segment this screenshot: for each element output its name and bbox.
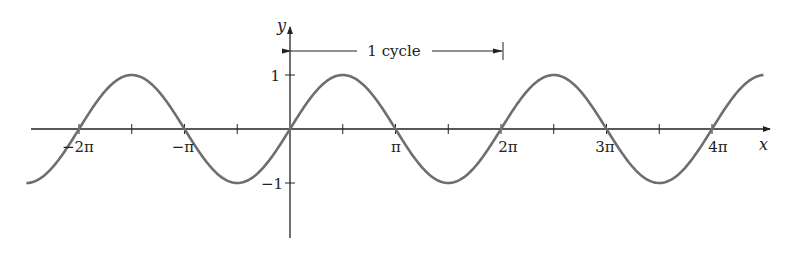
cycle-annotation: 1 cycle — [291, 42, 503, 60]
y-tick-label: 1 — [270, 67, 280, 85]
x-tick-label: −2π — [62, 138, 94, 156]
x-tick-label: π — [391, 138, 401, 156]
x-tick-label: −π — [172, 138, 195, 156]
x-axis-label: x — [759, 135, 768, 154]
x-tick-label: 3π — [595, 138, 615, 156]
y-axis-label: y — [276, 16, 287, 35]
sine-chart: y x −2π −π π 2π 3π 4π 1 −1 1 cycle — [0, 0, 787, 254]
y-tick-label: −1 — [261, 175, 283, 193]
x-tick-label: 2π — [498, 138, 518, 156]
x-tick-label: 4π — [708, 138, 728, 156]
cycle-label: 1 cycle — [367, 42, 420, 60]
